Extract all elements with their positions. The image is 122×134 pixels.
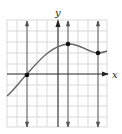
x-axis-label: x: [112, 69, 118, 80]
curve: [7, 44, 107, 96]
graph: x y: [0, 0, 122, 134]
axes: [7, 22, 108, 127]
y-axis-label: y: [54, 7, 61, 18]
x-axis-arrow-icon: [102, 72, 109, 77]
points: [25, 42, 101, 78]
